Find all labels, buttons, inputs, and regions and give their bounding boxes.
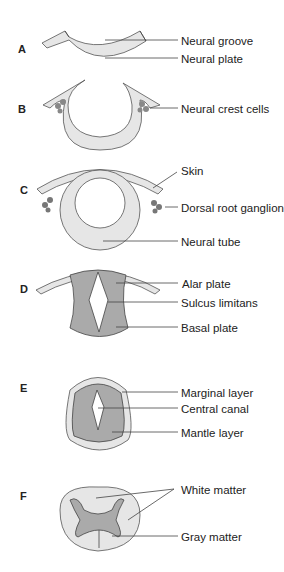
neural-fold-shape (43, 80, 160, 150)
panel-letter-b: B (18, 103, 26, 115)
label-neural-crest-cells: Neural crest cells (181, 103, 269, 115)
label-gray-matter: Gray matter (181, 531, 242, 543)
label-skin: Skin (181, 165, 203, 177)
panel-letter-a: A (18, 43, 26, 55)
label-white-matter: White matter (181, 484, 246, 496)
label-basal-plate: Basal plate (181, 322, 238, 334)
label-dorsal-root-ganglion: Dorsal root ganglion (181, 202, 284, 214)
label-neural-groove: Neural groove (181, 35, 253, 47)
label-marginal-layer: Marginal layer (181, 387, 253, 399)
panel-letter-f: F (20, 490, 27, 502)
panel-letter-e: E (20, 382, 27, 394)
label-central-canal: Central canal (181, 403, 249, 415)
label-mantle-layer: Mantle layer (181, 427, 244, 439)
label-neural-tube: Neural tube (181, 236, 240, 248)
label-neural-plate: Neural plate (181, 53, 243, 65)
label-alar-plate: Alar plate (182, 278, 231, 290)
label-sulcus-limitans: Sulcus limitans (181, 297, 258, 309)
panel-letter-d: D (20, 283, 28, 295)
neural-plate-shape (42, 31, 146, 56)
panel-letter-c: C (20, 184, 28, 196)
